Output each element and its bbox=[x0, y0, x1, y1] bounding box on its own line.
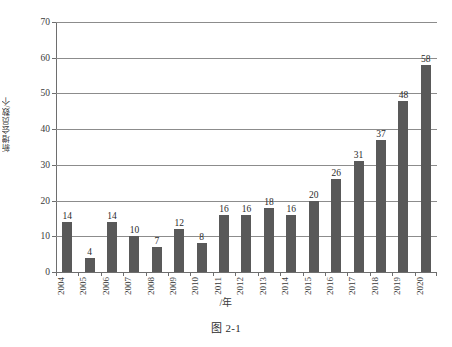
x-axis-tick-label: 2009 bbox=[168, 277, 190, 295]
y-axis-tick-label: 0 bbox=[26, 267, 50, 277]
x-axis-tick bbox=[123, 272, 124, 276]
bar bbox=[241, 215, 251, 272]
x-axis-tick bbox=[56, 272, 57, 276]
x-axis-tick bbox=[213, 272, 214, 276]
x-axis-tick bbox=[280, 272, 281, 276]
figure-container: 新增会员数/个 010203040506070 1441410712816161… bbox=[0, 0, 452, 347]
x-axis-tick bbox=[101, 272, 102, 276]
y-axis-tick-label: 60 bbox=[26, 53, 50, 63]
x-axis-tick-label: 2017 bbox=[347, 277, 369, 295]
bar-group: 26 bbox=[325, 22, 347, 272]
y-axis-tick bbox=[52, 201, 56, 202]
bar bbox=[376, 140, 386, 272]
x-axis-tick-label: 2015 bbox=[303, 277, 325, 295]
plot-area: 1441410712816161816202631374858 bbox=[56, 22, 437, 272]
bar-group: 58 bbox=[415, 22, 437, 272]
x-axis-tick-label: 2005 bbox=[78, 277, 100, 295]
y-axis-tick-label: 30 bbox=[26, 160, 50, 170]
y-axis-tick-label: 10 bbox=[26, 231, 50, 241]
x-axis-tick-label: 2020 bbox=[415, 277, 437, 295]
x-axis-tick bbox=[258, 272, 259, 276]
x-axis-tick-label: 2019 bbox=[392, 277, 414, 295]
bar bbox=[62, 222, 72, 272]
bar bbox=[129, 236, 139, 272]
x-axis-tick bbox=[415, 272, 416, 276]
x-axis-tick-label: 2016 bbox=[325, 277, 347, 295]
x-axis-tick-label: 2004 bbox=[56, 277, 78, 295]
y-axis-tick-label: 20 bbox=[26, 196, 50, 206]
x-axis-tick bbox=[436, 272, 437, 276]
x-axis-tick bbox=[370, 272, 371, 276]
y-axis-tick bbox=[52, 93, 56, 94]
figure-caption: 图 2-1 bbox=[0, 322, 452, 335]
x-axis-tick bbox=[190, 272, 191, 276]
bar-group: 8 bbox=[190, 22, 212, 272]
y-axis-tick bbox=[52, 58, 56, 59]
x-axis-tick bbox=[146, 272, 147, 276]
x-axis-tick-label: 2006 bbox=[101, 277, 123, 295]
x-axis-tick-label: 2018 bbox=[370, 277, 392, 295]
y-axis-tick-label: 40 bbox=[26, 124, 50, 134]
bar bbox=[152, 247, 162, 272]
y-axis-tick-label: 50 bbox=[26, 88, 50, 98]
bar bbox=[286, 215, 296, 272]
bar-group: 16 bbox=[280, 22, 302, 272]
x-axis-tick bbox=[168, 272, 169, 276]
y-axis-tick bbox=[52, 22, 56, 23]
bar-group: 16 bbox=[213, 22, 235, 272]
y-axis-tick-label: 70 bbox=[26, 17, 50, 27]
y-axis-tick bbox=[52, 236, 56, 237]
x-axis-tick-label: 2013 bbox=[258, 277, 280, 295]
y-axis-tick bbox=[52, 129, 56, 130]
x-axis-tick bbox=[235, 272, 236, 276]
bar-group: 16 bbox=[235, 22, 257, 272]
bar-value-label: 58 bbox=[411, 54, 441, 64]
bar-group: 14 bbox=[56, 22, 78, 272]
x-axis-tick bbox=[78, 272, 79, 276]
x-axis-tick-label: 2012 bbox=[235, 277, 257, 295]
x-axis-tick-label: 2007 bbox=[123, 277, 145, 295]
bar-group: 18 bbox=[258, 22, 280, 272]
bar bbox=[398, 101, 408, 272]
bar bbox=[174, 229, 184, 272]
y-axis-tick bbox=[52, 272, 56, 273]
bar-group: 37 bbox=[370, 22, 392, 272]
x-axis-tick bbox=[303, 272, 304, 276]
x-axis-tick-label: 2008 bbox=[146, 277, 168, 295]
x-axis-tick bbox=[347, 272, 348, 276]
x-axis-tick-label: 2010 bbox=[190, 277, 212, 295]
bar-group: 10 bbox=[123, 22, 145, 272]
bar bbox=[331, 179, 341, 272]
bar-group: 4 bbox=[78, 22, 100, 272]
bar-group: 31 bbox=[347, 22, 369, 272]
bar bbox=[309, 201, 319, 272]
bar bbox=[421, 65, 431, 272]
bar bbox=[107, 222, 117, 272]
bar bbox=[219, 215, 229, 272]
x-axis-tick-label: 2014 bbox=[280, 277, 302, 295]
bar bbox=[354, 161, 364, 272]
bar bbox=[85, 258, 95, 272]
bar bbox=[264, 208, 274, 272]
y-axis-tick bbox=[52, 165, 56, 166]
bar-group: 7 bbox=[146, 22, 168, 272]
bar-group: 20 bbox=[303, 22, 325, 272]
bar bbox=[197, 243, 207, 272]
x-axis-tick bbox=[325, 272, 326, 276]
x-axis-tick-label: 2011 bbox=[213, 277, 235, 295]
x-axis-tick bbox=[392, 272, 393, 276]
x-axis-title: /年 bbox=[0, 297, 452, 309]
